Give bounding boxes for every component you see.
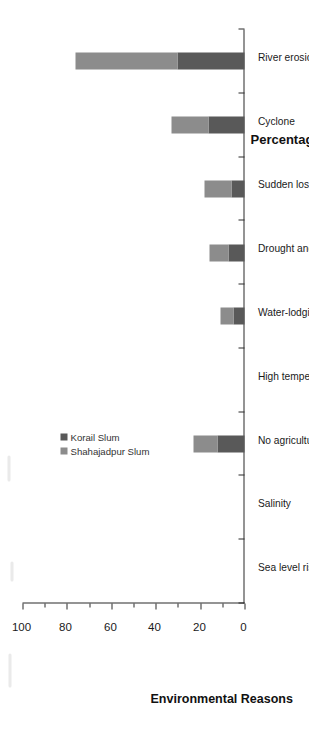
bar (171, 116, 244, 133)
scan-artifact (7, 455, 10, 481)
value-tick (200, 603, 201, 609)
category-label: Drought and a lack of water for irrigati… (258, 243, 310, 254)
category-tick (238, 538, 244, 539)
bar-segment (171, 116, 209, 133)
category-label: High temperatures or erratic rainfall (258, 370, 310, 381)
scan-artifact (10, 561, 13, 581)
bar (208, 244, 244, 261)
chart-canvas: 020406080100 Sea level riseSalinityNo ag… (0, 0, 309, 731)
category-label: Cyclone (258, 115, 295, 126)
bar-segment (75, 52, 177, 69)
value-tick-label: 20 (188, 620, 210, 632)
chart-legend: Korail SlumShahajadpur Slum (60, 431, 149, 459)
bar (220, 308, 244, 325)
value-minor-tick (89, 603, 90, 607)
value-minor-tick (133, 603, 134, 607)
category-label: Water-lodging (258, 307, 310, 318)
value-minor-tick (222, 603, 223, 607)
bar (204, 180, 244, 197)
category-tick (238, 602, 244, 603)
category-tick (238, 219, 244, 220)
legend-label: Shahajadpur Slum (70, 445, 149, 456)
bar-segment (209, 244, 229, 261)
legend-label: Korail Slum (70, 431, 119, 442)
value-tick-label: 40 (143, 620, 165, 632)
value-tick (22, 603, 23, 609)
value-tick (244, 603, 245, 609)
category-tick (238, 283, 244, 284)
value-tick (66, 603, 67, 609)
category-tick (238, 411, 244, 412)
legend-item: Korail Slum (60, 431, 149, 442)
legend-swatch (60, 433, 67, 440)
category-label: River erosion (258, 51, 310, 62)
value-tick-label: 0 (232, 620, 254, 632)
bar-segment (217, 435, 244, 452)
bar-segment (228, 244, 244, 261)
scan-artifact (8, 653, 11, 687)
value-tick-label: 80 (54, 620, 76, 632)
category-label: Salinity (258, 498, 291, 509)
bar-segment (204, 180, 231, 197)
bar-segment (220, 308, 233, 325)
chart-figure: 020406080100 Sea level riseSalinityNo ag… (0, 0, 309, 731)
value-tick (111, 603, 112, 609)
bar-segment (193, 435, 217, 452)
value-tick-label: 100 (10, 620, 32, 632)
category-tick (238, 156, 244, 157)
bar-segment (177, 52, 244, 69)
category-label: No agricultural work available during th… (258, 434, 310, 445)
plot-area: 020406080100 Sea level riseSalinityNo ag… (22, 29, 244, 603)
bar-segment (231, 180, 244, 197)
legend-swatch (60, 447, 67, 454)
category-axis-title: Environmental Reasons (150, 691, 292, 705)
category-label: Sudden loss of their house and/or crops … (258, 179, 310, 190)
bar (193, 435, 244, 452)
value-tick (155, 603, 156, 609)
value-minor-tick (44, 603, 45, 607)
legend-item: Shahajadpur Slum (60, 445, 149, 456)
category-tick (238, 92, 244, 93)
bar-segment (208, 116, 244, 133)
category-tick (238, 474, 244, 475)
value-minor-tick (177, 603, 178, 607)
value-axis-title: Percentage (%) (250, 131, 309, 146)
category-label: Sea level rise (258, 562, 310, 573)
category-tick (238, 347, 244, 348)
category-tick (238, 28, 244, 29)
bar-segment (233, 308, 244, 325)
bar (75, 52, 244, 69)
value-tick-label: 60 (99, 620, 121, 632)
